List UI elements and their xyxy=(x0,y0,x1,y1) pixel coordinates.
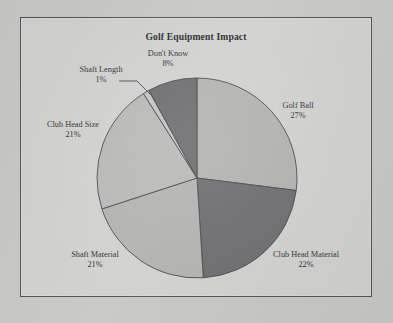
slice-label-shaft-length-value: 1% xyxy=(61,75,141,85)
slice-label-golf-ball-name: Golf Ball xyxy=(261,101,335,111)
slice-label-golf-ball-value: 27% xyxy=(261,111,335,121)
slice-label-club-head-size-name: Club Head Size xyxy=(25,120,121,130)
pie-slice-golf-ball[interactable]: Golf Ball 27% xyxy=(197,78,297,191)
slice-label-golf-ball: Golf Ball 27% xyxy=(261,101,335,122)
slice-label-dont-know-name: Don't Know xyxy=(125,49,211,59)
slice-label-shaft-material: Shaft Material 21% xyxy=(47,250,143,271)
slice-label-club-head-material: Club Head Material 22% xyxy=(245,250,367,271)
slice-label-shaft-material-value: 21% xyxy=(47,260,143,270)
pie-chart: Golf Ball 27%Club Head Material 22%Shaft… xyxy=(21,18,371,296)
slice-label-club-head-size-value: 21% xyxy=(25,130,121,140)
screenshot-root: Golf Equipment Impact Golf Ball 27%Club … xyxy=(0,0,393,323)
slice-label-shaft-length: Shaft Length 1% xyxy=(61,65,141,86)
slice-label-club-head-material-name: Club Head Material xyxy=(245,250,367,260)
slice-label-club-head-size: Club Head Size 21% xyxy=(25,120,121,141)
slice-label-shaft-material-name: Shaft Material xyxy=(47,250,143,260)
slice-label-club-head-material-value: 22% xyxy=(245,260,367,270)
chart-frame: Golf Equipment Impact Golf Ball 27%Club … xyxy=(20,17,372,297)
slice-label-shaft-length-name: Shaft Length xyxy=(61,65,141,75)
